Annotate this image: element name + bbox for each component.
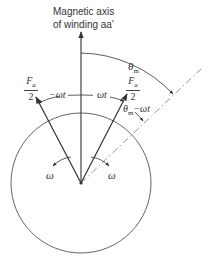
left-vector-arrow <box>36 97 81 183</box>
minus-omega-t-label: −ωt <box>49 90 66 100</box>
right-omega-label: ω <box>108 170 116 181</box>
axis-label-line2: of winding aa' <box>53 20 113 30</box>
left-fraction-denominator: 2 <box>24 91 38 102</box>
left-omega-label: ω <box>46 170 54 181</box>
axis-label-line1: Magnetic axis <box>53 7 113 17</box>
right-fraction-denominator: 2 <box>126 91 140 102</box>
minus-omega-t-text: −ωt <box>133 103 150 114</box>
omega-t-label: ωt <box>97 90 107 100</box>
theta-m-label: θm <box>128 61 139 75</box>
left-fraction-numerator: Fa <box>24 76 38 91</box>
theta-m-subscript: m <box>133 67 138 75</box>
theta-minus-omega-t-label: θm−ωt <box>123 104 150 117</box>
left-vector-label: Fa 2 <box>24 76 38 102</box>
right-fraction-numerator: Fa <box>126 76 140 91</box>
right-vector-arrow <box>81 94 127 183</box>
center-point <box>79 181 82 184</box>
right-vector-label: Fa 2 <box>126 76 140 102</box>
omega-t-arc <box>110 97 124 101</box>
theta-m-dashdot-line <box>81 69 201 183</box>
diagram-canvas <box>0 0 210 264</box>
